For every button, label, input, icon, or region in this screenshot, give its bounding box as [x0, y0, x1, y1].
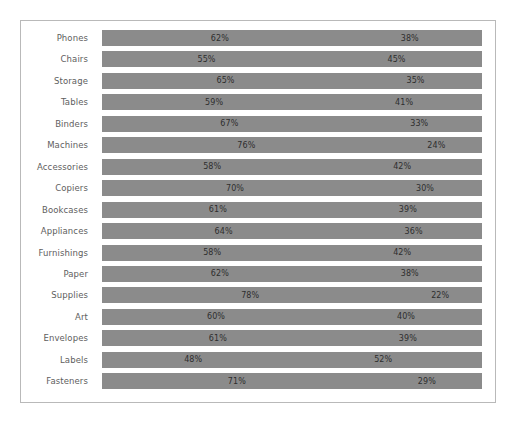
segment-value-secondary: 40%	[397, 312, 415, 321]
segment-value-primary: 76%	[237, 141, 255, 150]
category-label: Copiers	[21, 180, 95, 196]
chart-frame: Phones62%38%Chairs55%45%Storage65%35%Tab…	[20, 20, 496, 403]
category-label: Bookcases	[21, 202, 95, 218]
bar-row: Supplies78%22%	[21, 287, 495, 303]
bar-row: Chairs55%45%	[21, 51, 495, 67]
segment-value-primary: 48%	[184, 355, 202, 364]
category-label: Chairs	[21, 51, 95, 67]
category-label: Paper	[21, 266, 95, 282]
category-label: Furnishings	[21, 245, 95, 261]
bar-track: 61%39%	[102, 330, 482, 346]
bar-segment-primary[interactable]: 70%	[102, 180, 368, 196]
category-label: Envelopes	[21, 330, 95, 346]
bar-segment-primary[interactable]: 55%	[102, 51, 311, 67]
bar-track: 59%41%	[102, 94, 482, 110]
segment-value-secondary: 35%	[406, 76, 424, 85]
bar-row: Binders67%33%	[21, 116, 495, 132]
bar-segment-primary[interactable]: 65%	[102, 73, 349, 89]
bar-segment-primary[interactable]: 61%	[102, 202, 334, 218]
bar-track: 55%45%	[102, 51, 482, 67]
bar-segment-primary[interactable]: 59%	[102, 94, 326, 110]
segment-value-primary: 78%	[241, 291, 259, 300]
bar-track: 61%39%	[102, 202, 482, 218]
bar-track: 62%38%	[102, 266, 482, 282]
category-label: Labels	[21, 352, 95, 368]
bar-segment-primary[interactable]: 58%	[102, 159, 322, 175]
bar-segment-secondary[interactable]: 24%	[391, 137, 482, 153]
segment-value-primary: 64%	[215, 227, 233, 236]
segment-value-primary: 70%	[226, 184, 244, 193]
bar-segment-secondary[interactable]: 38%	[338, 30, 482, 46]
segment-value-secondary: 30%	[416, 184, 434, 193]
segment-value-secondary: 38%	[401, 34, 419, 43]
bar-segment-secondary[interactable]: 35%	[349, 73, 482, 89]
segment-value-primary: 62%	[211, 34, 229, 43]
bar-segment-primary[interactable]: 62%	[102, 266, 338, 282]
segment-value-secondary: 42%	[393, 248, 411, 257]
bar-row: Storage65%35%	[21, 73, 495, 89]
bar-segment-secondary[interactable]: 39%	[334, 202, 482, 218]
bar-segment-primary[interactable]: 67%	[102, 116, 357, 132]
segment-value-secondary: 22%	[431, 291, 449, 300]
bar-row: Fasteners71%29%	[21, 373, 495, 389]
segment-value-secondary: 36%	[405, 227, 423, 236]
segment-value-primary: 61%	[209, 205, 227, 214]
bar-segment-secondary[interactable]: 40%	[330, 309, 482, 325]
segment-value-secondary: 52%	[374, 355, 392, 364]
category-label: Accessories	[21, 159, 95, 175]
bar-segment-primary[interactable]: 78%	[102, 287, 398, 303]
bar-segment-secondary[interactable]: 45%	[311, 51, 482, 67]
category-label: Phones	[21, 30, 95, 46]
bar-row: Furnishings58%42%	[21, 245, 495, 261]
bar-segment-primary[interactable]: 58%	[102, 245, 322, 261]
segment-value-primary: 55%	[197, 55, 215, 64]
bar-track: 58%42%	[102, 245, 482, 261]
segment-value-primary: 60%	[207, 312, 225, 321]
bar-segment-secondary[interactable]: 41%	[326, 94, 482, 110]
segment-value-primary: 58%	[203, 162, 221, 171]
segment-value-primary: 58%	[203, 248, 221, 257]
segment-value-secondary: 39%	[399, 205, 417, 214]
bar-segment-secondary[interactable]: 36%	[345, 223, 482, 239]
bar-segment-secondary[interactable]: 52%	[284, 352, 482, 368]
bar-segment-primary[interactable]: 76%	[102, 137, 391, 153]
segment-value-primary: 65%	[216, 76, 234, 85]
bar-segment-secondary[interactable]: 39%	[334, 330, 482, 346]
bar-row: Accessories58%42%	[21, 159, 495, 175]
bar-track: 76%24%	[102, 137, 482, 153]
segment-value-primary: 61%	[209, 334, 227, 343]
bar-track: 71%29%	[102, 373, 482, 389]
bar-segment-secondary[interactable]: 29%	[372, 373, 482, 389]
segment-value-secondary: 39%	[399, 334, 417, 343]
bar-track: 67%33%	[102, 116, 482, 132]
bar-segment-primary[interactable]: 64%	[102, 223, 345, 239]
bar-segment-primary[interactable]: 60%	[102, 309, 330, 325]
bar-row: Bookcases61%39%	[21, 202, 495, 218]
bar-segment-secondary[interactable]: 30%	[368, 180, 482, 196]
bar-row: Appliances64%36%	[21, 223, 495, 239]
bar-segment-primary[interactable]: 61%	[102, 330, 334, 346]
segment-value-primary: 67%	[220, 119, 238, 128]
bar-row: Art60%40%	[21, 309, 495, 325]
bar-segment-secondary[interactable]: 42%	[322, 159, 482, 175]
bar-segment-secondary[interactable]: 33%	[357, 116, 482, 132]
category-label: Tables	[21, 94, 95, 110]
bar-row: Labels48%52%	[21, 352, 495, 368]
bar-segment-secondary[interactable]: 38%	[338, 266, 482, 282]
bar-row: Envelopes61%39%	[21, 330, 495, 346]
bar-row: Phones62%38%	[21, 30, 495, 46]
bar-segment-primary[interactable]: 62%	[102, 30, 338, 46]
segment-value-secondary: 42%	[393, 162, 411, 171]
bar-segment-secondary[interactable]: 42%	[322, 245, 482, 261]
category-label: Binders	[21, 116, 95, 132]
bar-track: 60%40%	[102, 309, 482, 325]
segment-value-secondary: 29%	[418, 377, 436, 386]
segment-value-primary: 59%	[205, 98, 223, 107]
bar-segment-secondary[interactable]: 22%	[398, 287, 482, 303]
segment-value-primary: 62%	[211, 269, 229, 278]
bar-row: Tables59%41%	[21, 94, 495, 110]
category-label: Storage	[21, 73, 95, 89]
segment-value-secondary: 24%	[427, 141, 445, 150]
bar-segment-primary[interactable]: 71%	[102, 373, 372, 389]
bar-segment-primary[interactable]: 48%	[102, 352, 284, 368]
